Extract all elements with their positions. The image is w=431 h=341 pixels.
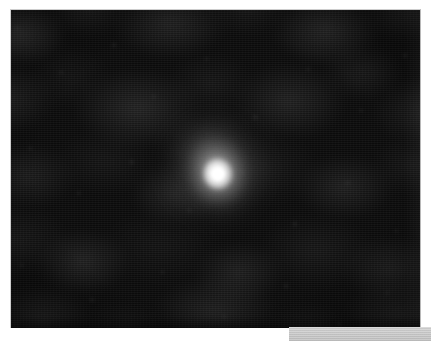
footer-band-striping [289,327,431,341]
image-canvas [11,10,420,328]
psf-peak [212,168,225,181]
image-stage [0,0,431,341]
gray-footer-band [289,327,431,341]
image-frame[interactable] [10,9,421,328]
